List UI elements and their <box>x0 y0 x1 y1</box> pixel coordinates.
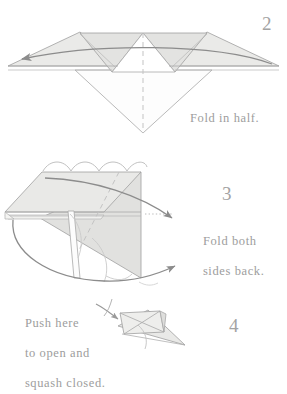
step-4-caption: Push here to open and squash closed. <box>10 301 106 394</box>
step3-scallop-edge <box>43 162 147 171</box>
step-3-number: 3 <box>222 184 232 203</box>
step-3-caption-line-1: Fold both <box>203 234 257 248</box>
step4-upper-remnant <box>139 282 158 285</box>
step-4-figure <box>96 282 185 349</box>
step3-under-layer <box>5 215 104 219</box>
step-2-number: 2 <box>262 14 272 33</box>
step-3-caption: Fold both sides back. <box>188 219 264 294</box>
step-4-caption-line-2: to open and <box>25 346 90 360</box>
step3-hidden-curve-c <box>106 274 132 280</box>
step-3-figure <box>5 162 175 282</box>
step-2-caption: Fold in half. <box>190 111 259 126</box>
step-4-caption-line-3: squash closed. <box>25 376 106 390</box>
step-3-caption-line-2: sides back. <box>203 264 264 278</box>
step-4-caption-line-1: Push here <box>25 316 79 330</box>
step-4-number: 4 <box>229 316 239 335</box>
